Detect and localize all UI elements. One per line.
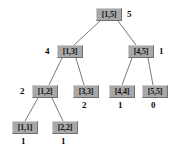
tree-edge bbox=[122, 58, 132, 85]
node-weight-n-4-4: 1 bbox=[118, 100, 123, 110]
tree-node-n-1-2[interactable]: [1,2] bbox=[32, 85, 58, 98]
node-weight-n-1-2: 2 bbox=[20, 86, 25, 96]
node-weight-n-5-5: 0 bbox=[151, 100, 156, 110]
tree-node-n-4-5[interactable]: [4,5] bbox=[128, 45, 154, 58]
node-weight-n-2-2: 1 bbox=[61, 136, 66, 146]
tree-edge bbox=[74, 21, 100, 45]
tree-node-n-2-2[interactable]: [2,2] bbox=[52, 121, 78, 134]
node-weight-n-1-5: 5 bbox=[127, 9, 132, 19]
node-weight-n-1-3: 4 bbox=[45, 46, 50, 56]
node-weight-n-4-5: 1 bbox=[159, 46, 164, 56]
tree-edge bbox=[25, 98, 38, 121]
node-weight-n-3-3: 2 bbox=[82, 100, 87, 110]
tree-edge bbox=[148, 58, 153, 85]
tree-node-n-1-1[interactable]: [1,1] bbox=[12, 121, 38, 134]
tree-edge bbox=[49, 58, 62, 85]
node-weight-n-1-1: 1 bbox=[21, 136, 26, 146]
tree-node-n-5-5[interactable]: [5,5] bbox=[142, 85, 168, 98]
tree-node-n-1-5[interactable]: [1,5] bbox=[96, 8, 122, 21]
tree-node-n-1-3[interactable]: [1,3] bbox=[57, 45, 83, 58]
segment-tree-diagram: [1,5]5[1,3]4[4,5]1[1,2]2[3,3]2[4,4]1[5,5… bbox=[0, 0, 177, 150]
tree-node-n-3-3[interactable]: [3,3] bbox=[73, 85, 99, 98]
tree-edge bbox=[52, 98, 63, 121]
tree-node-n-4-4[interactable]: [4,4] bbox=[109, 85, 135, 98]
tree-edge bbox=[76, 58, 84, 85]
tree-edge bbox=[118, 21, 136, 45]
